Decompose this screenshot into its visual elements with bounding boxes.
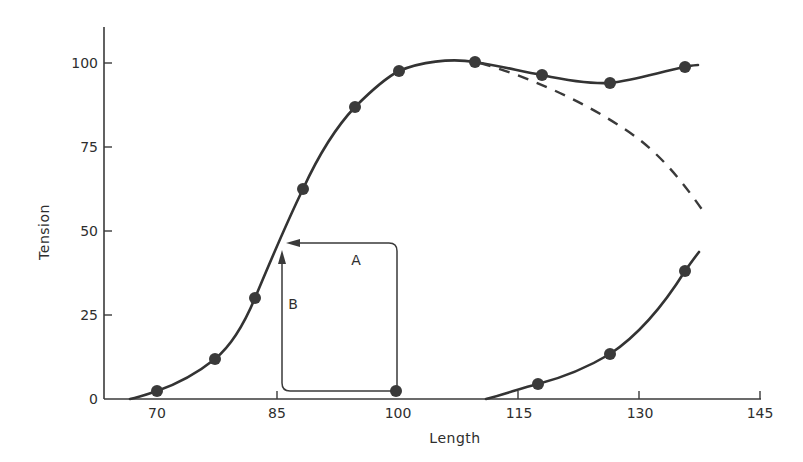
isolated-data-point	[390, 385, 402, 397]
y-tick-label: 0	[89, 391, 98, 407]
data-point	[532, 378, 544, 390]
passive-curve-markers	[532, 265, 691, 390]
data-point	[349, 101, 361, 113]
projected-tension-curve	[480, 63, 703, 211]
y-axis-label: Tension	[36, 204, 52, 261]
y-tick-label: 25	[80, 307, 98, 323]
y-ticks: 100 75 50 25 0	[71, 55, 112, 407]
x-axis-label: Length	[429, 430, 480, 446]
passive-tension-curve	[486, 252, 699, 399]
y-tick-label: 50	[80, 223, 98, 239]
x-tick-label: 145	[747, 405, 774, 421]
x-tick-label: 100	[385, 405, 412, 421]
data-point	[151, 385, 163, 397]
annotation-b-label: B	[288, 296, 298, 312]
data-point	[469, 56, 481, 68]
data-point	[249, 292, 261, 304]
x-tick-label: 85	[268, 405, 286, 421]
arrow-b: B	[278, 250, 397, 391]
data-point	[679, 61, 691, 73]
data-point	[604, 77, 616, 89]
main-tension-curve	[130, 60, 698, 399]
arrow-a: A	[286, 239, 397, 391]
annotation-a-label: A	[351, 252, 361, 268]
tension-length-chart: 100 75 50 25 0 70 85 100 115 130 145 Len…	[0, 0, 803, 462]
y-tick-label: 75	[80, 139, 98, 155]
main-curve-markers	[151, 56, 691, 397]
data-point	[393, 65, 405, 77]
x-ticks: 70 85 100 115 130 145	[148, 391, 773, 421]
data-point	[297, 183, 309, 195]
data-point	[679, 265, 691, 277]
x-tick-label: 130	[627, 405, 654, 421]
x-tick-label: 115	[506, 405, 533, 421]
y-tick-label: 100	[71, 55, 98, 71]
axes	[104, 27, 761, 399]
data-point	[604, 348, 616, 360]
data-point	[536, 69, 548, 81]
data-point	[209, 353, 221, 365]
x-tick-label: 70	[148, 405, 166, 421]
